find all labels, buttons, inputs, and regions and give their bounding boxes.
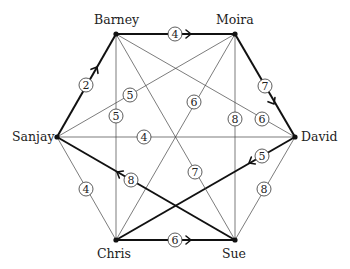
nodes-layer: BarneyMoiraSanjayDavidChrisSue (12, 12, 338, 261)
edge-weight-label: 5 (123, 88, 137, 102)
node-label-barney: Barney (94, 12, 140, 27)
edge-weight-label: 6 (255, 112, 269, 126)
edge-weight-label: 7 (188, 165, 202, 179)
svg-text:8: 8 (261, 183, 268, 196)
svg-text:8: 8 (232, 113, 239, 126)
edge-weight-label: 4 (168, 27, 182, 41)
node-label-david: David (301, 129, 338, 144)
svg-text:2: 2 (83, 79, 90, 92)
svg-text:5: 5 (259, 150, 266, 163)
edge-weight-label: 4 (137, 130, 151, 144)
svg-text:4: 4 (172, 28, 179, 41)
svg-text:6: 6 (259, 113, 266, 126)
edge-weight-label: 5 (109, 109, 123, 123)
edge-weight-label: 8 (257, 182, 271, 196)
edge-weight-label: 6 (187, 95, 201, 109)
svg-text:6: 6 (191, 96, 198, 109)
edge-weight-label: 8 (228, 112, 242, 126)
node-barney (113, 31, 118, 36)
svg-text:4: 4 (141, 131, 148, 144)
node-david (292, 134, 297, 139)
node-label-sue: Sue (222, 246, 246, 261)
svg-text:8: 8 (128, 174, 135, 187)
svg-text:4: 4 (83, 183, 90, 196)
edge-weight-label: 4 (79, 182, 93, 196)
svg-text:5: 5 (127, 89, 134, 102)
node-label-chris: Chris (97, 246, 131, 261)
node-moira (232, 31, 237, 36)
edge-weight-label: 5 (255, 149, 269, 163)
edge-weight-label: 2 (79, 78, 93, 92)
node-chris (113, 237, 118, 242)
svg-text:6: 6 (172, 234, 179, 247)
edges-layer (57, 34, 295, 240)
node-label-moira: Moira (216, 12, 254, 27)
node-label-sanjay: Sanjay (12, 129, 55, 144)
svg-text:7: 7 (262, 80, 269, 93)
svg-text:5: 5 (113, 110, 120, 123)
svg-text:7: 7 (192, 166, 199, 179)
node-sue (232, 237, 237, 242)
node-sanjay (54, 134, 59, 139)
graph-diagram: 427556864548786 BarneyMoiraSanjayDavidCh… (0, 0, 350, 269)
edge-weight-label: 7 (258, 79, 272, 93)
edge-weight-label: 6 (168, 233, 182, 247)
edge-weight-label: 8 (124, 173, 138, 187)
